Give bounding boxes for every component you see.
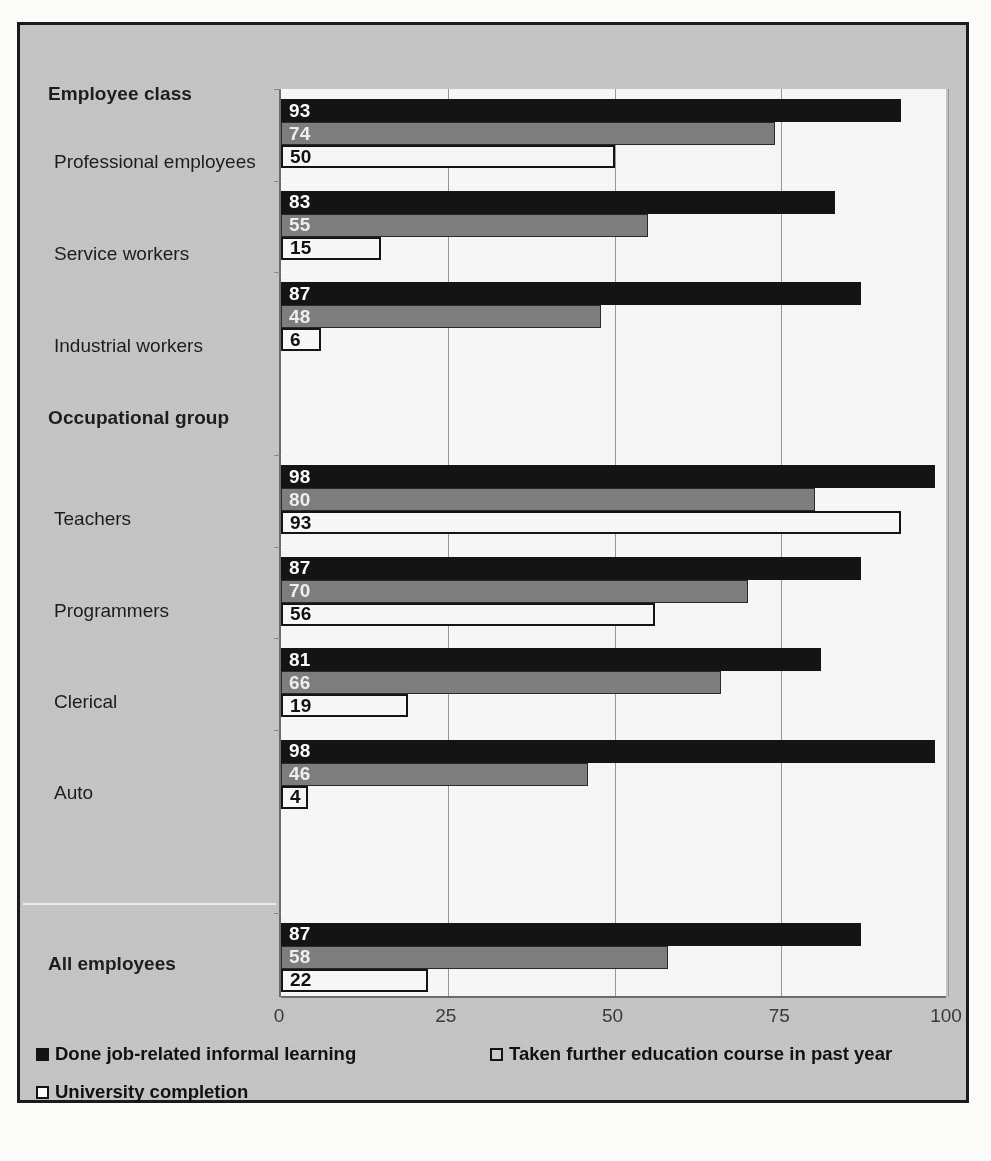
axis-tick-stub <box>274 181 281 182</box>
bar[interactable]: 50 <box>281 145 615 168</box>
bar-value-label: 70 <box>289 580 311 602</box>
x-tick-label-50: 50 <box>602 1005 623 1027</box>
legend-swatch-icon <box>36 1086 49 1099</box>
bar-group: 835515 <box>281 181 946 273</box>
bar[interactable]: 48 <box>281 305 601 328</box>
bar[interactable]: 74 <box>281 122 775 145</box>
bar[interactable]: 80 <box>281 488 815 511</box>
category-label-column: Employee classProfessional employeesServ… <box>20 25 279 1055</box>
bar-value-label: 50 <box>290 146 312 168</box>
bar-value-label: 58 <box>289 946 311 968</box>
x-tick-label-0: 0 <box>274 1005 285 1027</box>
bar[interactable]: 83 <box>281 191 835 214</box>
chart-figure: Employee classProfessional employeesServ… <box>17 22 969 1103</box>
legend-label: Taken further education course in past y… <box>509 1043 892 1065</box>
bar-value-label: 81 <box>289 649 311 671</box>
bar-group: 877056 <box>281 547 946 639</box>
bar[interactable]: 98 <box>281 465 935 488</box>
total-row-separator <box>23 903 276 905</box>
bar-value-label: 15 <box>290 237 312 259</box>
group-header-label: Occupational group <box>48 407 263 429</box>
axis-tick-stub <box>274 547 281 548</box>
category-label: Clerical <box>54 691 269 713</box>
axis-tick-stub <box>274 913 281 914</box>
bar-value-label: 46 <box>289 763 311 785</box>
bar[interactable]: 58 <box>281 946 668 969</box>
legend-label: University completion <box>55 1081 248 1103</box>
bar-value-label: 48 <box>289 306 311 328</box>
legend-item[interactable]: Done job-related informal learning <box>36 1043 356 1065</box>
bar-value-label: 80 <box>289 489 311 511</box>
category-label: Auto <box>54 782 269 804</box>
bar-value-label: 87 <box>289 283 311 305</box>
legend-item[interactable]: Taken further education course in past y… <box>490 1043 892 1065</box>
axis-tick-stub <box>274 455 281 456</box>
bar[interactable]: 98 <box>281 740 935 763</box>
bar-group: 988093 <box>281 455 946 547</box>
bar[interactable]: 93 <box>281 511 901 534</box>
bar[interactable]: 55 <box>281 214 648 237</box>
bar-value-label: 87 <box>289 923 311 945</box>
group-header-label: Employee class <box>48 83 263 105</box>
bar-group: 816619 <box>281 638 946 730</box>
total-row-label: All employees <box>48 953 263 975</box>
bar[interactable]: 70 <box>281 580 748 603</box>
x-axis-line <box>281 996 946 998</box>
bar[interactable]: 19 <box>281 694 408 717</box>
bar[interactable]: 22 <box>281 969 428 992</box>
bar-value-label: 22 <box>290 969 312 991</box>
bar-value-label: 6 <box>290 329 301 351</box>
plot-area: 9374508355158748698809387705681661998464… <box>279 89 946 997</box>
legend-item[interactable]: University completion <box>36 1081 248 1103</box>
bar-value-label: 66 <box>289 672 311 694</box>
bar[interactable]: 87 <box>281 282 861 305</box>
bar[interactable]: 56 <box>281 603 655 626</box>
bar-value-label: 83 <box>289 191 311 213</box>
bar-value-label: 93 <box>289 100 311 122</box>
gridline-100 <box>948 89 949 997</box>
bar[interactable]: 87 <box>281 923 861 946</box>
bar-value-label: 98 <box>289 466 311 488</box>
bar[interactable]: 15 <box>281 237 381 260</box>
axis-tick-stub <box>274 730 281 731</box>
bar-value-label: 55 <box>289 214 311 236</box>
category-label: Industrial workers <box>54 335 269 357</box>
bar[interactable]: 66 <box>281 671 721 694</box>
category-label: Programmers <box>54 600 269 622</box>
axis-tick-stub <box>274 638 281 639</box>
category-label: Teachers <box>54 508 269 530</box>
scanned-page: Employee classProfessional employeesServ… <box>0 0 991 1161</box>
bar-value-label: 93 <box>290 512 312 534</box>
bar-group: 875822 <box>281 913 946 1005</box>
bar-group: 87486 <box>281 272 946 364</box>
axis-tick-stub <box>274 89 281 90</box>
bar-value-label: 98 <box>289 740 311 762</box>
axis-tick-stub <box>274 272 281 273</box>
bar[interactable]: 93 <box>281 99 901 122</box>
category-label: Professional employees <box>54 151 269 173</box>
legend-label: Done job-related informal learning <box>55 1043 356 1065</box>
bar-value-label: 19 <box>290 695 312 717</box>
bar[interactable]: 81 <box>281 648 821 671</box>
bar-group: 937450 <box>281 89 946 181</box>
bar-value-label: 4 <box>290 786 301 808</box>
legend-swatch-icon <box>36 1048 49 1061</box>
x-tick-label-100: 100 <box>930 1005 962 1027</box>
bar-group: 98464 <box>281 730 946 822</box>
bar[interactable]: 4 <box>281 786 308 809</box>
legend-swatch-icon <box>490 1048 503 1061</box>
bar[interactable]: 46 <box>281 763 588 786</box>
x-tick-label-75: 75 <box>769 1005 790 1027</box>
bar[interactable]: 6 <box>281 328 321 351</box>
bar[interactable]: 87 <box>281 557 861 580</box>
bar-value-label: 56 <box>290 603 312 625</box>
category-label: Service workers <box>54 243 269 265</box>
bar-value-label: 74 <box>289 123 311 145</box>
x-tick-label-25: 25 <box>435 1005 456 1027</box>
bar-value-label: 87 <box>289 557 311 579</box>
